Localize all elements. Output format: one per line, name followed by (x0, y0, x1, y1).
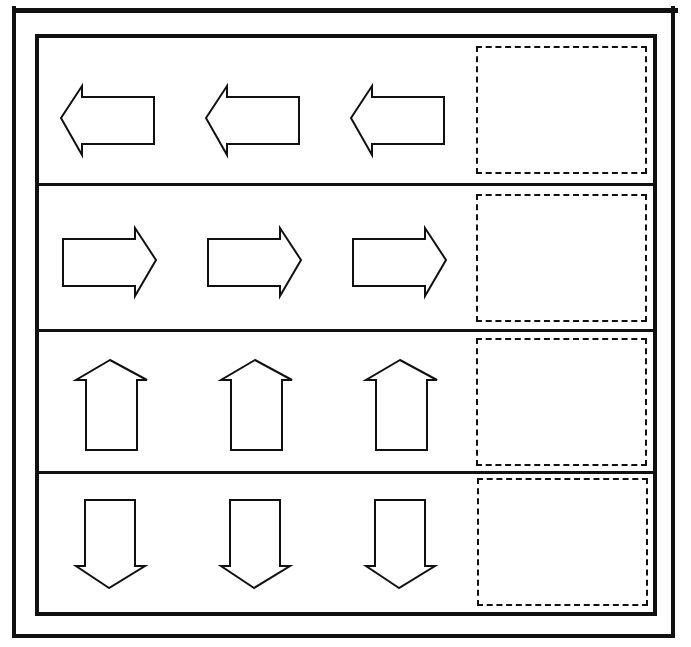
worksheet-grid (35, 34, 657, 616)
row-up (39, 332, 653, 474)
answer-box-2[interactable] (476, 194, 647, 322)
row-left (39, 38, 653, 186)
row-down (39, 474, 653, 616)
row-right (39, 186, 653, 332)
answer-box-1[interactable] (476, 46, 647, 174)
answer-box-4[interactable] (477, 478, 648, 606)
answer-box-3[interactable] (476, 338, 647, 466)
